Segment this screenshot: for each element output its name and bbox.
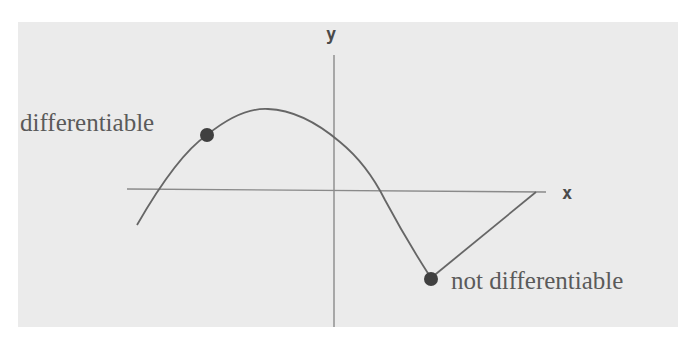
not-differentiable-label: not differentiable — [451, 268, 623, 293]
not-differentiable-point — [424, 272, 438, 286]
smooth-curve — [137, 109, 431, 278]
differentiable-point — [200, 128, 214, 142]
linear-segment — [431, 192, 536, 278]
differentiable-label: differentiable — [20, 110, 154, 135]
x-axis-label: x — [562, 185, 572, 202]
x-axis — [127, 189, 546, 192]
y-axis-label: y — [326, 26, 336, 43]
